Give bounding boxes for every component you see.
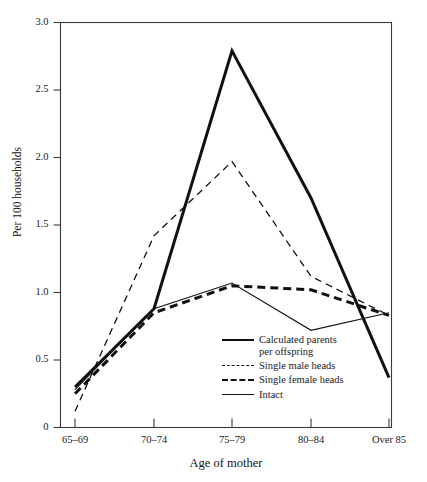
legend-item-label: Single male heads: [259, 360, 335, 372]
x-tick-label: Over 85: [354, 434, 424, 445]
x-tick-label: 70–74: [119, 434, 189, 445]
x-tick-label: 65–69: [40, 434, 110, 445]
y-tick-label: 1.5: [23, 218, 49, 229]
x-tick-label: 80–84: [276, 434, 346, 445]
y-tick-label: 0.5: [23, 353, 49, 364]
y-tick-label: 0: [23, 421, 49, 432]
line-chart-canvas: [0, 0, 427, 482]
x-axis-title: Age of mother: [60, 456, 392, 471]
legend-item: Calculated parents per offspring: [222, 334, 344, 357]
chart-legend: Calculated parents per offspringSingle m…: [222, 334, 344, 403]
legend-item: Single female heads: [222, 374, 344, 386]
legend-item-label: Intact: [259, 389, 283, 401]
legend-swatch-icon: [222, 374, 254, 386]
legend-item-label: Calculated parents per offspring: [259, 334, 337, 357]
legend-swatch-icon: [222, 389, 254, 401]
y-tick-label: 3.0: [23, 16, 49, 27]
figure-chart: 00.51.01.52.02.53.0 65–6970–7475–7980–84…: [0, 0, 427, 482]
legend-swatch-icon: [222, 360, 254, 372]
y-axis-title: Per 100 households: [11, 122, 23, 262]
y-tick-label: 2.0: [23, 151, 49, 162]
x-tick-marks: [75, 419, 389, 428]
legend-item: Single male heads: [222, 360, 344, 372]
y-tick-label: 2.5: [23, 83, 49, 94]
x-tick-label: 75–79: [197, 434, 267, 445]
legend-swatch-icon: [222, 334, 254, 346]
legend-item-label: Single female heads: [259, 374, 344, 386]
y-tick-marks: [54, 23, 61, 428]
y-tick-label: 1.0: [23, 286, 49, 297]
legend-item: Intact: [222, 389, 344, 401]
